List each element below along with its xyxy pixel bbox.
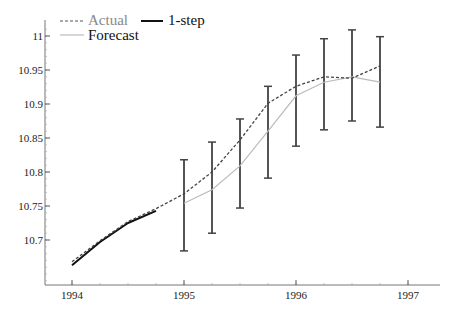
error-bars [180,30,384,251]
legend: Actual1-stepForecast [60,12,205,43]
y-tick-label: 10.85 [18,132,43,144]
one-step-line [72,211,156,265]
y-tick-label: 10.9 [24,98,44,110]
series-lines [72,66,380,265]
forecast-line [184,77,380,204]
x-tick-label: 1994 [61,289,84,301]
actual-line [72,66,380,262]
y-tick-label: 10.8 [24,166,44,178]
axes: 10.710.7510.810.8510.910.951119941995199… [18,20,440,301]
x-tick-label: 1996 [285,289,308,301]
y-tick-label: 10.7 [24,234,44,246]
legend-forecast-label: Forecast [88,27,140,43]
legend-one-step-label: 1-step [168,12,205,28]
forecast-chart: 10.710.7510.810.8510.910.951119941995199… [0,0,460,316]
y-tick-label: 10.95 [18,64,43,76]
y-tick-label: 10.75 [18,200,43,212]
x-tick-label: 1997 [397,289,420,301]
x-tick-label: 1995 [173,289,196,301]
y-tick-label: 11 [32,30,43,42]
legend-actual-label: Actual [88,12,128,28]
